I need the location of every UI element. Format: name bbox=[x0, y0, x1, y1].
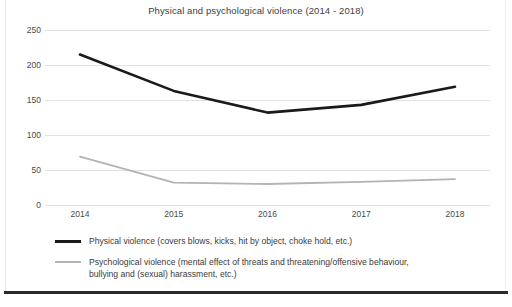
y-axis-tick-label: 50 bbox=[1, 165, 41, 175]
x-axis-tick-label: 2015 bbox=[164, 209, 183, 219]
x-axis-tick-label: 2018 bbox=[446, 209, 465, 219]
bottom-rule bbox=[4, 291, 508, 294]
legend-label-physical: Physical violence (covers blows, kicks, … bbox=[89, 235, 352, 247]
chart-title: Physical and psychological violence (201… bbox=[0, 5, 512, 16]
series-line-physical-violence bbox=[80, 55, 455, 113]
y-axis-tick-label: 0 bbox=[1, 200, 41, 210]
legend-label-psychological-line1: Psychological violence (mental effect of… bbox=[89, 257, 409, 267]
y-axis-tick-label: 150 bbox=[1, 95, 41, 105]
x-axis-tick-label: 2017 bbox=[352, 209, 371, 219]
y-axis-tick-label: 100 bbox=[1, 130, 41, 140]
y-axis-tick-label: 200 bbox=[1, 60, 41, 70]
x-axis-tick-label: 2016 bbox=[258, 209, 277, 219]
legend-line-swatch-psychological bbox=[55, 261, 81, 263]
series-line-psychological-violence bbox=[80, 157, 455, 184]
legend-label-psychological-line2: bullying and (sexual) harassment, etc.) bbox=[89, 269, 237, 279]
plot-area bbox=[45, 30, 490, 205]
page-border-right bbox=[505, 0, 506, 292]
legend-item-psychological-violence: Psychological violence (mental effect of… bbox=[55, 256, 485, 280]
legend-line-swatch-physical bbox=[55, 240, 81, 243]
y-axis-tick-label: 250 bbox=[1, 25, 41, 35]
gridline bbox=[45, 205, 490, 206]
x-axis: 20142015201620172018 bbox=[45, 209, 490, 223]
legend-label-psychological: Psychological violence (mental effect of… bbox=[89, 256, 409, 280]
chart-legend: Physical violence (covers blows, kicks, … bbox=[55, 235, 485, 289]
legend-item-physical-violence: Physical violence (covers blows, kicks, … bbox=[55, 235, 485, 247]
chart-figure: Physical and psychological violence (201… bbox=[0, 0, 512, 307]
x-axis-tick-label: 2014 bbox=[71, 209, 90, 219]
y-axis: 050100150200250 bbox=[0, 30, 41, 205]
series-lines bbox=[45, 30, 490, 205]
